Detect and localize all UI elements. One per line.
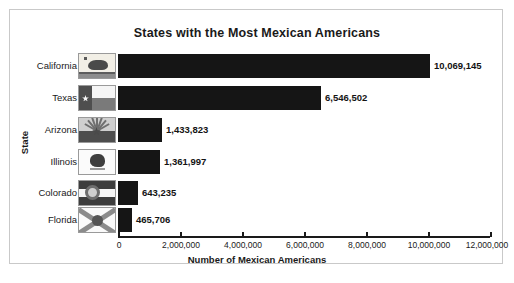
- x-axis-tick: [366, 232, 368, 237]
- x-axis-tick-label: 10,000,000: [408, 240, 451, 250]
- bar: [118, 54, 430, 78]
- bar: [118, 150, 160, 174]
- colorado-flag-icon: [78, 180, 116, 206]
- plot-area: California 10,069,145 Texas 6,546,502 Ar…: [0, 0, 514, 283]
- category-label: Colorado: [0, 187, 77, 198]
- texas-flag-icon: [78, 85, 116, 111]
- x-axis-tick-label: 0: [117, 240, 122, 250]
- category-label: Florida: [0, 214, 77, 225]
- florida-flag-icon: [78, 207, 116, 233]
- x-axis-title: Number of Mexican Americans: [0, 254, 514, 265]
- x-axis-tick-label: 4,000,000: [224, 240, 262, 250]
- x-axis-tick: [304, 232, 306, 237]
- bar: [118, 86, 321, 110]
- category-label: Texas: [0, 92, 77, 103]
- bar-row[interactable]: Texas 6,546,502: [0, 84, 514, 112]
- x-axis-tick-label: 6,000,000: [286, 240, 324, 250]
- bar-value-label: 6,546,502: [325, 92, 367, 103]
- bar-value-label: 643,235: [142, 187, 176, 198]
- bar-row[interactable]: Illinois 1,361,997: [0, 148, 514, 176]
- x-axis-tick: [180, 232, 182, 237]
- category-label: Arizona: [0, 124, 77, 135]
- chart-page: States with the Most Mexican Americans S…: [0, 0, 514, 283]
- bar: [118, 181, 138, 205]
- bar-value-label: 1,433,823: [166, 124, 208, 135]
- x-axis-tick-label: 8,000,000: [348, 240, 386, 250]
- bar: [118, 208, 132, 232]
- x-axis-tick-label: 12,000,000: [466, 240, 509, 250]
- x-axis-tick: [118, 232, 120, 237]
- bar-row[interactable]: Florida 465,706: [0, 206, 514, 234]
- bar: [118, 118, 162, 142]
- california-flag-icon: [78, 53, 116, 79]
- arizona-flag-icon: [78, 117, 116, 143]
- x-axis-tick: [242, 232, 244, 237]
- bar-value-label: 465,706: [136, 214, 170, 225]
- category-label: Illinois: [0, 156, 77, 167]
- x-axis-tick-label: 2,000,000: [162, 240, 200, 250]
- bar-value-label: 1,361,997: [164, 156, 206, 167]
- x-axis-tick: [428, 232, 430, 237]
- bar-row[interactable]: Colorado 643,235: [0, 179, 514, 207]
- bar-value-label: 10,069,145: [434, 60, 482, 71]
- bar-row[interactable]: California 10,069,145: [0, 52, 514, 80]
- illinois-flag-icon: [78, 149, 116, 175]
- category-label: California: [0, 60, 77, 71]
- x-axis-tick: [490, 232, 492, 237]
- bar-row[interactable]: Arizona 1,433,823: [0, 116, 514, 144]
